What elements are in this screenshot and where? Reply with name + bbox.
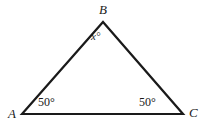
geometry-figure: B A C x° 50° 50° — [0, 0, 208, 126]
angle-label-c: 50° — [139, 96, 156, 108]
angle-label-a: 50° — [38, 96, 55, 108]
vertex-label-a: A — [8, 107, 16, 120]
vertex-label-b: B — [99, 3, 107, 16]
vertex-label-c: C — [189, 106, 198, 119]
angle-label-b: x° — [91, 31, 100, 42]
triangle-drawing — [0, 0, 208, 126]
